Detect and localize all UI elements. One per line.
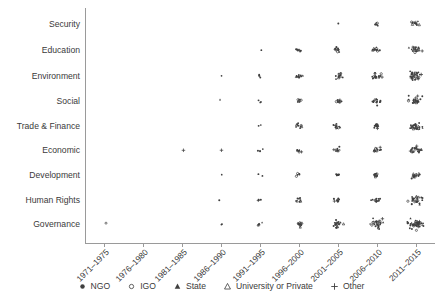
data-point <box>220 224 222 226</box>
data-point <box>417 49 420 52</box>
data-point <box>337 48 340 51</box>
data-point <box>376 147 378 149</box>
data-point <box>374 173 376 175</box>
data-point <box>411 77 413 79</box>
open-triangle-icon <box>223 282 232 291</box>
data-point <box>407 222 409 224</box>
y-axis-label: Trade & Finance <box>17 121 80 131</box>
data-point <box>257 173 259 175</box>
data-point <box>342 223 344 225</box>
data-point <box>296 200 298 202</box>
data-point <box>414 51 416 53</box>
legend-item-other[interactable]: Other <box>330 281 365 291</box>
data-point <box>335 78 337 80</box>
data-point <box>260 199 262 201</box>
data-point <box>412 197 414 199</box>
data-point <box>257 224 259 226</box>
data-point <box>379 101 381 103</box>
data-point <box>415 126 417 128</box>
data-point <box>411 23 414 25</box>
legend-item-state[interactable]: State <box>173 281 206 291</box>
y-axis-label: Security <box>49 19 80 29</box>
data-point <box>337 148 339 150</box>
data-point <box>374 174 376 176</box>
data-point <box>296 149 298 151</box>
data-point <box>300 124 302 126</box>
data-point <box>298 77 300 79</box>
data-point <box>418 101 420 103</box>
data-point <box>332 148 335 151</box>
data-point <box>260 101 262 103</box>
data-point <box>415 50 417 52</box>
data-point <box>375 123 378 126</box>
data-point <box>298 224 300 226</box>
data-point <box>374 72 376 74</box>
plus-icon <box>330 282 339 291</box>
data-point <box>372 77 374 79</box>
legend-item-igo[interactable]: IGO <box>127 281 156 291</box>
data-point <box>417 223 419 225</box>
data-point <box>413 224 415 226</box>
data-point <box>297 101 299 103</box>
data-point <box>380 73 382 75</box>
data-point <box>414 23 416 25</box>
data-point <box>419 203 421 205</box>
data-point <box>296 124 298 126</box>
data-point <box>417 223 419 225</box>
data-point <box>376 125 378 127</box>
data-point <box>333 198 335 200</box>
data-point <box>373 150 375 152</box>
scatter-chart: SecurityEducationEnvironmentSocialTrade … <box>0 0 442 304</box>
data-point <box>413 223 415 225</box>
data-point <box>335 173 337 175</box>
data-point <box>413 174 415 176</box>
data-point <box>299 99 301 101</box>
data-point <box>334 148 337 151</box>
legend-item-university-or-private[interactable]: University or Private <box>223 281 313 291</box>
data-point <box>296 149 298 151</box>
data-point <box>259 75 261 77</box>
data-point <box>414 201 416 203</box>
data-point <box>257 223 260 226</box>
data-point <box>412 199 414 201</box>
data-point <box>339 73 341 75</box>
data-point <box>411 76 413 78</box>
data-point <box>337 23 339 25</box>
data-point <box>297 125 299 127</box>
data-point <box>378 225 380 227</box>
data-point <box>413 176 415 178</box>
data-point <box>300 50 302 52</box>
data-point <box>262 148 264 150</box>
data-point <box>300 75 302 77</box>
data-point <box>412 173 415 175</box>
data-point <box>414 176 416 178</box>
data-point <box>417 128 419 130</box>
data-point <box>298 173 300 175</box>
data-point <box>373 76 375 78</box>
data-point <box>416 23 418 25</box>
data-point <box>416 201 418 203</box>
data-point <box>414 222 416 224</box>
data-point <box>412 50 414 52</box>
data-point <box>410 124 412 126</box>
data-point <box>337 199 339 201</box>
data-point <box>338 198 340 200</box>
data-point <box>375 98 377 100</box>
data-point <box>376 49 378 51</box>
data-point <box>410 76 413 79</box>
data-point <box>377 126 379 128</box>
data-point <box>337 174 339 176</box>
data-point <box>417 77 420 80</box>
data-point <box>418 23 420 25</box>
data-point <box>411 224 413 226</box>
data-point <box>409 75 411 77</box>
data-point <box>376 224 378 226</box>
legend-item-ngo[interactable]: NGO <box>78 281 111 291</box>
data-point <box>258 125 260 127</box>
data-point <box>413 48 415 50</box>
data-point <box>339 99 341 101</box>
data-point <box>420 222 422 224</box>
data-point <box>340 221 342 223</box>
legend-item-label: NGO <box>91 281 111 291</box>
data-point <box>416 75 418 77</box>
